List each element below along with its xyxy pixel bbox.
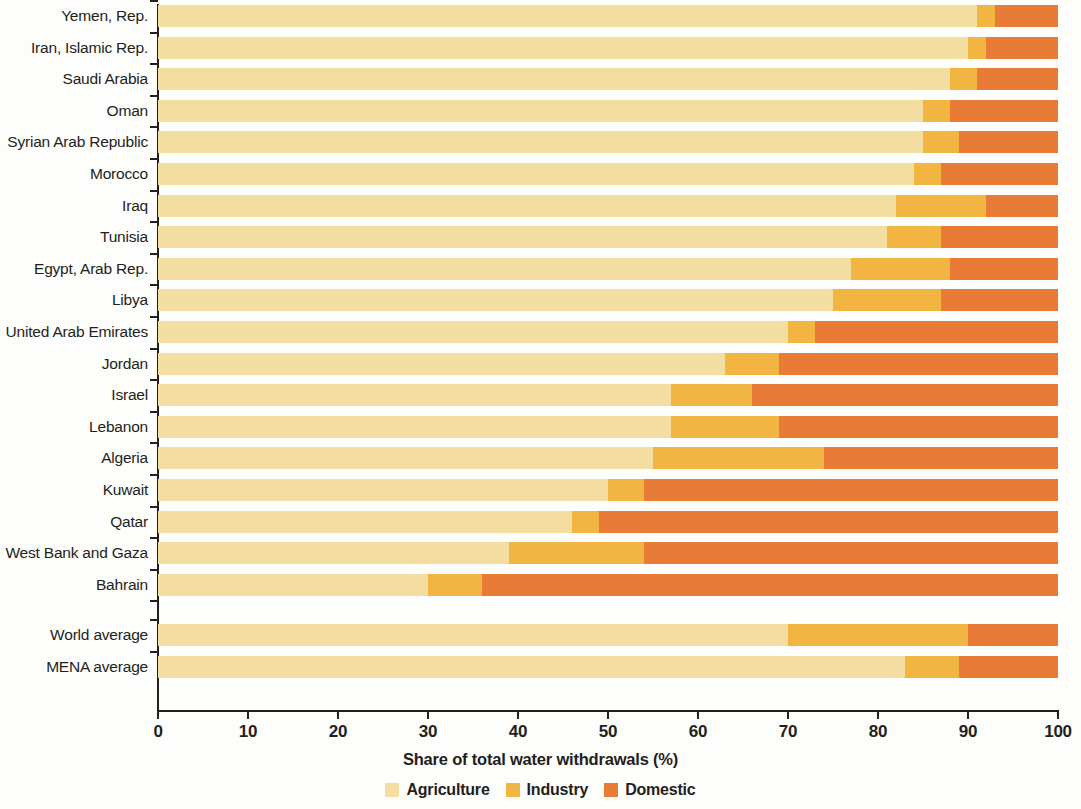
y-axis-tick	[150, 411, 158, 413]
bar-segment-domestic	[644, 542, 1058, 564]
legend-item[interactable]: Domestic	[604, 781, 695, 799]
x-axis-tick	[787, 710, 789, 719]
bar-segment-industry	[968, 37, 986, 59]
y-axis-label: MENA average	[0, 658, 148, 676]
legend-swatch-icon	[604, 783, 618, 797]
plot-area	[158, 0, 1058, 710]
x-axis-tick	[247, 710, 249, 719]
bar-segment-agriculture	[158, 447, 653, 469]
x-axis-tick-label: 30	[419, 722, 437, 742]
bar-segment-industry	[833, 289, 941, 311]
bar-segment-industry	[977, 5, 995, 27]
bar-segment-industry	[914, 163, 941, 185]
x-axis-tick-label: 60	[689, 722, 707, 742]
bar-segment-industry	[671, 384, 752, 406]
bar-segment-industry	[572, 511, 599, 533]
bar-row	[158, 511, 1058, 533]
bar-row	[158, 131, 1058, 153]
bar-segment-domestic	[752, 384, 1058, 406]
bar-segment-domestic	[779, 353, 1058, 375]
legend-item[interactable]: Agriculture	[385, 781, 489, 799]
bar-row	[158, 656, 1058, 678]
y-axis-label: Morocco	[0, 165, 148, 183]
x-axis-tick	[427, 710, 429, 719]
bar-segment-agriculture	[158, 479, 608, 501]
bar-segment-industry	[671, 416, 779, 438]
bar-row	[158, 353, 1058, 375]
y-axis-tick	[150, 0, 158, 2]
y-axis-label: Jordan	[0, 355, 148, 373]
y-axis-tick	[150, 348, 158, 350]
y-axis-tick	[150, 253, 158, 255]
bar-row	[158, 100, 1058, 122]
legend-item[interactable]: Industry	[506, 781, 589, 799]
bar-segment-domestic	[986, 195, 1058, 217]
bar-segment-domestic	[482, 574, 1058, 596]
y-axis-tick	[150, 32, 158, 34]
x-axis-tick	[517, 710, 519, 719]
bar-segment-agriculture	[158, 321, 788, 343]
y-axis-label: Kuwait	[0, 481, 148, 499]
y-axis-tick	[150, 158, 158, 160]
y-axis-label: Yemen, Rep.	[0, 7, 148, 25]
bar-segment-agriculture	[158, 511, 572, 533]
legend-swatch-icon	[506, 783, 520, 797]
bar-row	[158, 258, 1058, 280]
legend-swatch-icon	[385, 783, 399, 797]
x-axis-tick-label: 20	[329, 722, 347, 742]
x-axis-tick	[337, 710, 339, 719]
legend-label: Domestic	[625, 781, 695, 799]
bar-row	[158, 416, 1058, 438]
bar-segment-industry	[428, 574, 482, 596]
bar-segment-industry	[905, 656, 959, 678]
y-axis-label: Libya	[0, 291, 148, 309]
bar-segment-domestic	[986, 37, 1058, 59]
bar-segment-agriculture	[158, 384, 671, 406]
bar-segment-agriculture	[158, 37, 968, 59]
bar-segment-industry	[896, 195, 986, 217]
bar-segment-domestic	[941, 163, 1058, 185]
bar-segment-agriculture	[158, 258, 851, 280]
bar-segment-agriculture	[158, 163, 914, 185]
x-axis-tick-label: 90	[959, 722, 977, 742]
bar-segment-domestic	[950, 258, 1058, 280]
y-axis-tick	[150, 190, 158, 192]
y-axis-tick	[150, 506, 158, 508]
bar-segment-industry	[608, 479, 644, 501]
bar-row	[158, 384, 1058, 406]
bar-segment-agriculture	[158, 416, 671, 438]
y-axis-tick	[150, 619, 158, 621]
y-axis-tick	[150, 600, 158, 602]
bar-segment-domestic	[995, 5, 1058, 27]
y-axis-tick	[150, 95, 158, 97]
bar-segment-industry	[725, 353, 779, 375]
bar-segment-domestic	[599, 511, 1058, 533]
bar-row	[158, 542, 1058, 564]
y-axis-label: Israel	[0, 386, 148, 404]
x-axis-tick	[607, 710, 609, 719]
bar-segment-domestic	[968, 624, 1058, 646]
bar-row	[158, 226, 1058, 248]
x-axis-tick-label: 50	[599, 722, 617, 742]
y-axis-tick	[150, 63, 158, 65]
x-axis-tick	[877, 710, 879, 719]
y-axis-tick	[150, 569, 158, 571]
bar-segment-domestic	[950, 100, 1058, 122]
bar-row	[158, 447, 1058, 469]
x-axis-tick	[1057, 710, 1059, 719]
y-axis-tick	[150, 316, 158, 318]
bar-segment-agriculture	[158, 68, 950, 90]
y-axis-label: Bahrain	[0, 576, 148, 594]
bar-row	[158, 5, 1058, 27]
y-axis-tick	[150, 537, 158, 539]
bar-segment-agriculture	[158, 195, 896, 217]
bar-segment-agriculture	[158, 542, 509, 564]
bar-segment-agriculture	[158, 226, 887, 248]
bar-segment-agriculture	[158, 100, 923, 122]
bar-segment-domestic	[779, 416, 1058, 438]
x-axis-title: Share of total water withdrawals (%)	[0, 750, 1081, 769]
bar-segment-industry	[788, 321, 815, 343]
x-axis-tick-label: 100	[1044, 722, 1071, 742]
x-axis-tick	[697, 710, 699, 719]
bar-row	[158, 68, 1058, 90]
